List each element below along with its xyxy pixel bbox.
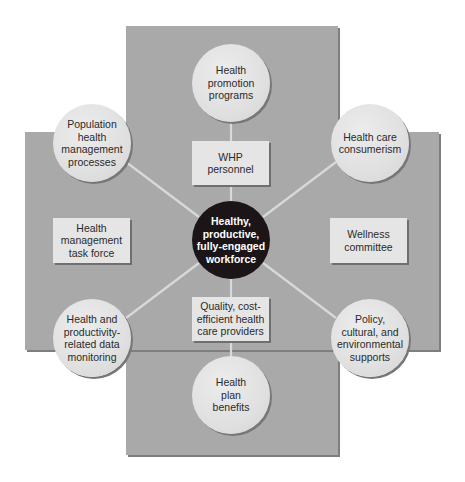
circle-health-promotion-programs: Health promotion programs [192, 44, 270, 122]
workforce-health-diagram: WHP personnel Health management task for… [0, 0, 465, 482]
box-label: WHP personnel [207, 151, 253, 176]
circle-label: Health plan benefits [213, 376, 250, 414]
circle-policy-supports: Policy, cultural, and environmental supp… [331, 299, 409, 377]
connector-bottom-left [126, 263, 199, 318]
center-circle-workforce: Healthy, productive, fully-engaged workf… [192, 201, 270, 279]
center-label: Healthy, productive, fully-engaged workf… [197, 215, 265, 265]
circle-label: Health and productivity- related data mo… [64, 313, 121, 363]
connector-bottom-right [263, 263, 336, 318]
circle-population-health-management: Population health management processes [53, 104, 131, 182]
circle-label: Population health management processes [61, 118, 122, 168]
connector-top-right [263, 162, 336, 217]
circle-data-monitoring: Health and productivity- related data mo… [53, 299, 131, 377]
box-health-management-task-force: Health management task force [53, 218, 130, 263]
connector-top-left [126, 162, 199, 217]
box-label: Quality, cost- efficient health care pro… [197, 300, 265, 338]
circle-health-plan-benefits: Health plan benefits [192, 356, 270, 434]
box-wellness-committee: Wellness committee [330, 218, 407, 263]
box-whp-personnel: WHP personnel [192, 141, 269, 185]
box-label: Health management task force [61, 222, 122, 260]
box-quality-care-providers: Quality, cost- efficient health care pro… [192, 297, 269, 341]
circle-label: Policy, cultural, and environmental supp… [337, 313, 403, 363]
box-label: Wellness committee [344, 228, 392, 253]
circle-label: Health promotion programs [208, 64, 255, 102]
circle-label: Health care consumerism [339, 131, 401, 156]
circle-health-care-consumerism: Health care consumerism [331, 104, 409, 182]
